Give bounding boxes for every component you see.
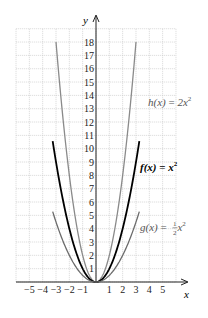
y-tick-label: 3 — [89, 237, 94, 248]
x-tick-label: 3 — [133, 284, 138, 295]
x-tick-label: 4 — [147, 284, 152, 295]
x-tick-label: −5 — [24, 284, 35, 295]
y-tick-label: 17 — [84, 50, 94, 61]
y-tick-label: 8 — [89, 170, 94, 181]
x-tick-label: −4 — [37, 284, 48, 295]
y-axis-label: y — [82, 14, 88, 26]
x-tick-label: −3 — [51, 284, 62, 295]
x-tick-label: 1 — [107, 284, 112, 295]
y-tick-label: 6 — [89, 197, 94, 208]
label-f: f(x) = x2 — [140, 160, 178, 174]
y-tick-label: 11 — [84, 130, 94, 141]
y-tick-label: 7 — [89, 183, 94, 194]
x-axis-label: x — [183, 288, 189, 300]
x-tick-label: −1 — [77, 284, 88, 295]
y-tick-label: 2 — [89, 250, 94, 261]
y-tick-label: 14 — [84, 90, 94, 101]
y-tick-label: 10 — [84, 143, 94, 154]
x-tick-label: −2 — [64, 284, 75, 295]
y-tick-label: 13 — [84, 103, 94, 114]
label-h: h(x) = 2x2 — [148, 95, 192, 109]
x-tick-label: 5 — [160, 284, 165, 295]
label-g: g(x) = x2 — [140, 220, 186, 234]
curve-labels: h(x) = 2x2f(x) = x2g(x) = x212 — [140, 95, 192, 237]
parabola-chart: −5−4−3−2−1123451234567891011121314151617… — [0, 0, 208, 318]
y-tick-label: 4 — [89, 223, 94, 234]
y-tick-label: 15 — [84, 77, 94, 88]
y-tick-label: 16 — [84, 63, 94, 74]
fraction-denominator: 2 — [173, 229, 177, 237]
x-tick-label: 2 — [120, 284, 125, 295]
y-tick-label: 18 — [84, 37, 94, 48]
y-tick-label: 1 — [89, 263, 94, 274]
fraction-numerator: 1 — [173, 220, 177, 228]
y-tick-label: 12 — [84, 117, 94, 128]
y-tick-label: 5 — [89, 210, 94, 221]
y-tick-label: 9 — [89, 157, 94, 168]
